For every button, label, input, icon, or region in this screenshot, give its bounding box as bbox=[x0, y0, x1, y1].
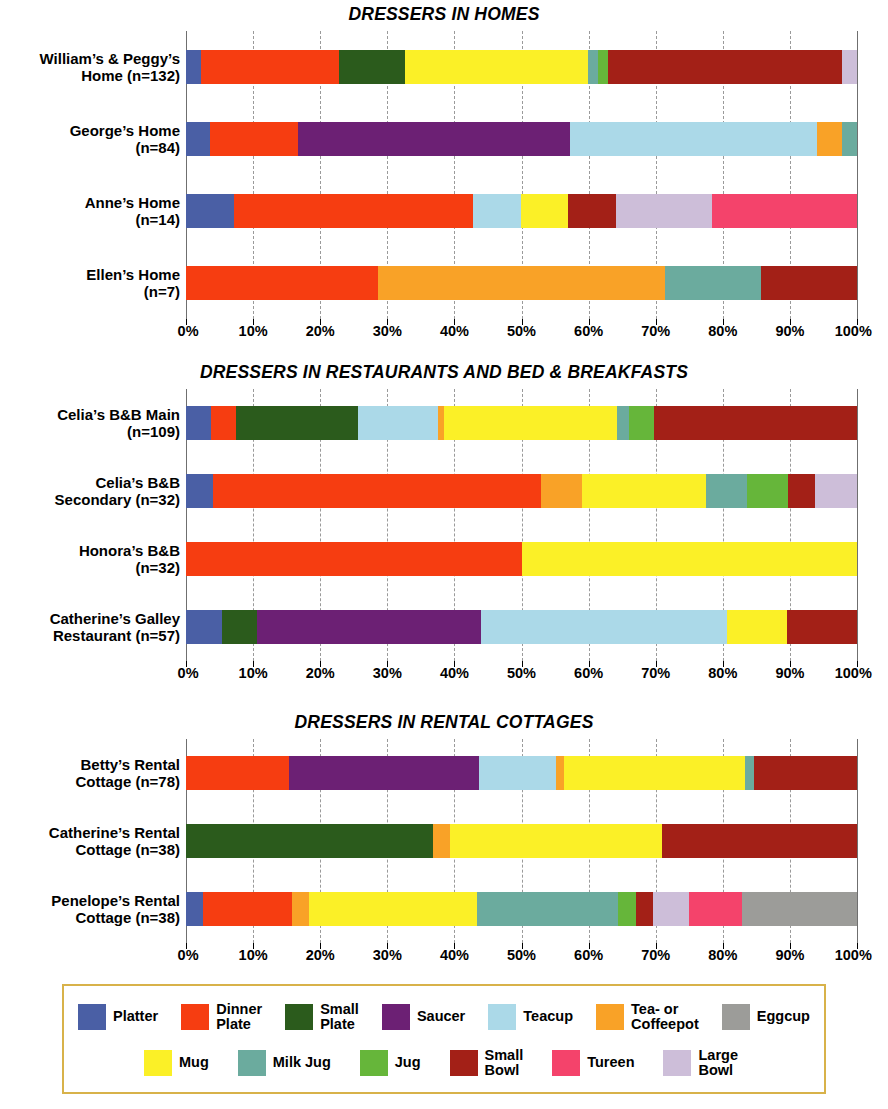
stacked-bar bbox=[186, 610, 857, 644]
bar-row: Catherine’s Galley Restaurant (n=57) bbox=[186, 593, 857, 661]
bar-segment-dinner_plate bbox=[210, 122, 298, 156]
axis-tick-label: 50% bbox=[507, 947, 536, 963]
bar-segment-dinner_plate bbox=[211, 406, 236, 440]
bar-segment-mug bbox=[727, 610, 786, 644]
axis-tick-label: 30% bbox=[373, 665, 402, 681]
axis-tick-label: 20% bbox=[306, 323, 335, 339]
bar-segment-large_bowl bbox=[653, 892, 689, 926]
bar-row: Anne’s Home (n=14) bbox=[186, 175, 857, 247]
axis-tick-label: 10% bbox=[239, 323, 268, 339]
bar-row: Betty’s Rental Cottage (n=78) bbox=[186, 739, 857, 807]
bar-segment-platter bbox=[186, 610, 222, 644]
axis-tick-label: 50% bbox=[507, 323, 536, 339]
axis-tick-label: 70% bbox=[641, 947, 670, 963]
chart-panel-rental-cottages: DRESSERS IN RENTAL COTTAGES Betty’s Rent… bbox=[0, 712, 888, 969]
bar-row-label: William’s & Peggy’s Home (n=132) bbox=[0, 50, 180, 84]
bar-segment-saucer bbox=[257, 610, 480, 644]
chart-legend: PlatterDinner PlateSmall PlateSaucerTeac… bbox=[62, 984, 826, 1094]
legend-swatch-tea_coffeepot bbox=[596, 1004, 624, 1030]
bar-segment-dinner_plate bbox=[234, 194, 474, 228]
legend-swatch-teacup bbox=[488, 1004, 516, 1030]
bar-segment-platter bbox=[186, 194, 234, 228]
stacked-bar bbox=[186, 50, 857, 84]
plot-area: Celia’s B&B Main (n=109)Celia’s B&B Seco… bbox=[186, 389, 857, 661]
bar-row-label: Catherine’s Galley Restaurant (n=57) bbox=[0, 610, 180, 644]
legend-item-milk_jug: Milk Jug bbox=[238, 1050, 331, 1076]
bar-row: Celia’s B&B Main (n=109) bbox=[186, 389, 857, 457]
bar-segment-milk_jug bbox=[706, 474, 747, 508]
panel-title: DRESSERS IN RESTAURANTS AND BED & BREAKF… bbox=[0, 362, 888, 383]
stacked-bar bbox=[186, 266, 857, 300]
bar-rows: Betty’s Rental Cottage (n=78)Catherine’s… bbox=[186, 739, 857, 943]
bar-segment-dinner_plate bbox=[203, 892, 292, 926]
legend-swatch-mug bbox=[144, 1050, 172, 1076]
stacked-bar bbox=[186, 474, 857, 508]
bar-segment-mug bbox=[582, 474, 705, 508]
bar-segment-small_bowl bbox=[788, 474, 815, 508]
bar-row-label: Catherine’s Rental Cottage (n=38) bbox=[0, 824, 180, 858]
bar-row: William’s & Peggy’s Home (n=132) bbox=[186, 31, 857, 103]
bar-segment-milk_jug bbox=[665, 266, 761, 300]
legend-item-small_bowl: Small Bowl bbox=[450, 1048, 524, 1079]
legend-swatch-eggcup bbox=[722, 1004, 750, 1030]
bar-segment-small_bowl bbox=[608, 50, 842, 84]
legend-row-1: PlatterDinner PlateSmall PlateSaucerTeac… bbox=[78, 994, 814, 1040]
legend-swatch-platter bbox=[78, 1004, 106, 1030]
legend-swatch-small_bowl bbox=[450, 1050, 478, 1076]
legend-item-small_plate: Small Plate bbox=[285, 1002, 359, 1033]
bar-segment-tea_coffeepot bbox=[817, 122, 841, 156]
bar-segment-mug bbox=[564, 756, 744, 790]
axis-tick-label: 30% bbox=[373, 323, 402, 339]
bar-segment-platter bbox=[186, 892, 203, 926]
bar-segment-mug bbox=[521, 194, 569, 228]
bar-segment-saucer bbox=[298, 122, 570, 156]
bar-segment-eggcup bbox=[742, 892, 857, 926]
bar-segment-large_bowl bbox=[842, 50, 857, 84]
bar-row-label: Anne’s Home (n=14) bbox=[0, 194, 180, 228]
bar-segment-dinner_plate bbox=[186, 542, 522, 576]
stacked-bar bbox=[186, 892, 857, 926]
axis-tick-label: 80% bbox=[708, 947, 737, 963]
bar-segment-teacup bbox=[358, 406, 438, 440]
bar-segment-small_bowl bbox=[654, 406, 857, 440]
bar-segment-saucer bbox=[289, 756, 478, 790]
bar-rows: Celia’s B&B Main (n=109)Celia’s B&B Seco… bbox=[186, 389, 857, 661]
bar-row-label: Betty’s Rental Cottage (n=78) bbox=[0, 756, 180, 790]
legend-swatch-large_bowl bbox=[663, 1050, 691, 1076]
bar-segment-teacup bbox=[479, 756, 556, 790]
axis-tick-label: 30% bbox=[373, 947, 402, 963]
bar-segment-small_plate bbox=[222, 610, 258, 644]
panel-title: DRESSERS IN RENTAL COTTAGES bbox=[0, 712, 888, 733]
axis-tick-label: 90% bbox=[775, 665, 804, 681]
legend-label-dinner_plate: Dinner Plate bbox=[216, 1002, 262, 1033]
bar-segment-dinner_plate bbox=[201, 50, 339, 84]
bar-row-label: Penelope’s Rental Cottage (n=38) bbox=[0, 892, 180, 926]
axis-tick-label: 40% bbox=[440, 323, 469, 339]
bar-row-label: Celia’s B&B Secondary (n=32) bbox=[0, 474, 180, 508]
bar-segment-tea_coffeepot bbox=[433, 824, 450, 858]
stacked-bar bbox=[186, 756, 857, 790]
bar-segment-small_plate bbox=[186, 824, 433, 858]
axis-tick-label: 60% bbox=[574, 323, 603, 339]
axis-tick-label: 70% bbox=[641, 665, 670, 681]
bar-rows: William’s & Peggy’s Home (n=132)George’s… bbox=[186, 31, 857, 319]
x-axis: 0%10%20%30%40%50%60%70%80%90%100% bbox=[186, 943, 857, 969]
bar-segment-small_bowl bbox=[787, 610, 857, 644]
legend-label-jug: Jug bbox=[395, 1055, 421, 1071]
axis-tick-label: 70% bbox=[641, 323, 670, 339]
axis-tick-label: 90% bbox=[775, 323, 804, 339]
bar-segment-tureen bbox=[712, 194, 857, 228]
legend-label-tureen: Tureen bbox=[587, 1055, 634, 1071]
axis-tick-label: 0% bbox=[178, 665, 199, 681]
bar-segment-large_bowl bbox=[815, 474, 857, 508]
bar-segment-mug bbox=[450, 824, 662, 858]
legend-swatch-small_plate bbox=[285, 1004, 313, 1030]
bar-segment-platter bbox=[186, 474, 213, 508]
axis-tick-label: 50% bbox=[507, 665, 536, 681]
plot-area: William’s & Peggy’s Home (n=132)George’s… bbox=[186, 31, 857, 319]
legend-item-platter: Platter bbox=[78, 1004, 158, 1030]
legend-swatch-jug bbox=[360, 1050, 388, 1076]
legend-item-jug: Jug bbox=[360, 1050, 421, 1076]
chart-page: DRESSERS IN HOMES William’s & Peggy’s Ho… bbox=[0, 0, 888, 1109]
bar-row-label: Ellen’s Home (n=7) bbox=[0, 266, 180, 300]
